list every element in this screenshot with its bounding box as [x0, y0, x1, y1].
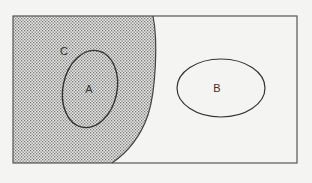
venn-diagram: C A B: [0, 0, 312, 183]
set-b-ellipse: [177, 59, 265, 117]
set-b-label: B: [213, 82, 220, 94]
set-c-label: C: [60, 45, 68, 57]
set-a-label: A: [85, 83, 93, 95]
